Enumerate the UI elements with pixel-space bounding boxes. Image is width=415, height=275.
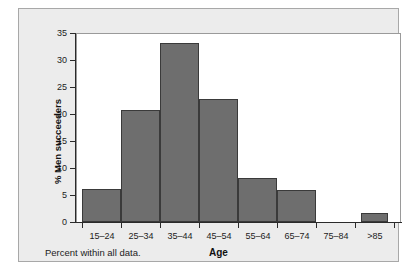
x-tick [199, 223, 200, 228]
bar-35–44 [160, 43, 199, 222]
y-tick-label: 25 [23, 83, 67, 92]
y-tick-20 [70, 114, 76, 115]
x-tick [316, 223, 317, 228]
y-tick-label: 0 [23, 218, 67, 227]
x-tick [394, 223, 395, 228]
bar-15–24 [82, 189, 121, 222]
bar-45–54 [199, 99, 238, 222]
y-tick-15 [70, 141, 76, 142]
y-tick-25 [70, 87, 76, 88]
x-tick [121, 223, 122, 228]
x-axis-title: Age [209, 247, 228, 258]
x-tick [355, 223, 356, 228]
y-tick-5 [70, 195, 76, 196]
bar-65–74 [277, 190, 316, 222]
x-tick-label: >85 [352, 231, 398, 241]
y-tick-10 [70, 168, 76, 169]
x-tick [82, 223, 83, 228]
figure: 05101520253035 15–2425–3435–4445–5455–64… [0, 0, 415, 275]
y-axis-title: % Men succeeders [52, 99, 63, 184]
y-tick-35 [70, 33, 76, 34]
y-tick-label: 35 [23, 29, 67, 38]
bar-55–64 [238, 178, 277, 222]
x-tick [238, 223, 239, 228]
bar-25–34 [121, 110, 160, 222]
y-tick-label: 30 [23, 56, 67, 65]
chart-caption: Percent within all data. [45, 247, 141, 258]
x-tick [277, 223, 278, 228]
y-tick-label: 5 [23, 191, 67, 200]
y-tick-30 [70, 60, 76, 61]
bar->85 [361, 213, 388, 222]
y-tick-0 [70, 222, 76, 223]
x-tick [160, 223, 161, 228]
chart-panel: 05101520253035 15–2425–3435–4445–5455–64… [18, 8, 399, 262]
